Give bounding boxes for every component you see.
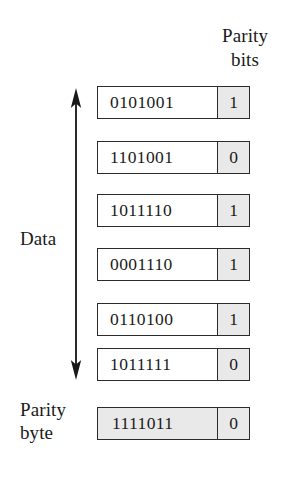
parity-bits-header-line-2: bits <box>196 48 294 72</box>
parity-bits-column-header: Parity bits <box>196 24 294 72</box>
parity-bits-header-line-1: Parity <box>196 24 294 48</box>
data-bits-cell: 1101001 <box>98 142 217 173</box>
table-row: 1101001 0 <box>97 141 250 174</box>
data-bits-cell: 0110100 <box>98 304 217 335</box>
parity-diagram: Parity bits Data 0101001 1 1101001 0 101… <box>0 0 294 484</box>
table-row: 1011110 1 <box>97 194 250 227</box>
data-bits-cell: 0101001 <box>98 87 217 118</box>
data-bits-cell: 0001110 <box>98 249 217 280</box>
parity-byte-label: Parity byte <box>20 398 92 444</box>
table-row: 0110100 1 <box>97 303 250 336</box>
table-row: 0101001 1 <box>97 86 250 119</box>
data-bits-cell: 1011110 <box>98 195 217 226</box>
data-label-text: Data <box>20 227 56 250</box>
parity-byte-row: 1111011 0 <box>97 407 250 440</box>
parity-byte-bits-cell: 1111011 <box>98 408 217 439</box>
table-row: 1011111 0 <box>97 348 250 381</box>
parity-bit-cell: 1 <box>217 304 249 335</box>
parity-byte-label-line-2: byte <box>20 421 92 444</box>
parity-byte-label-line-1: Parity <box>20 398 92 421</box>
parity-bit-cell: 0 <box>217 142 249 173</box>
parity-bit-cell: 0 <box>217 349 249 380</box>
data-bits-cell: 1011111 <box>98 349 217 380</box>
data-direction-double-arrow-icon <box>66 86 86 382</box>
parity-bit-cell: 1 <box>217 195 249 226</box>
data-label: Data <box>20 227 56 250</box>
parity-bit-cell: 1 <box>217 249 249 280</box>
table-row: 0001110 1 <box>97 248 250 281</box>
parity-bit-cell: 1 <box>217 87 249 118</box>
parity-byte-parity-bit-cell: 0 <box>217 408 249 439</box>
